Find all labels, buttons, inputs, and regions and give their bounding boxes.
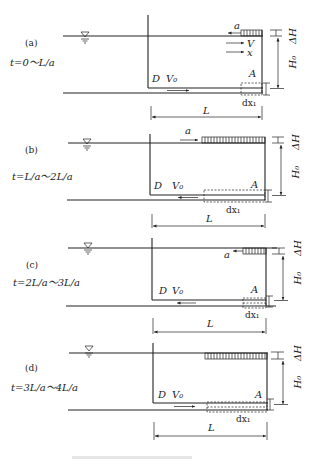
valve-label-a: A xyxy=(248,68,256,79)
length-label: L xyxy=(207,422,215,433)
h0-label: H₀ xyxy=(290,166,301,180)
wave-speed-label: a xyxy=(224,249,230,260)
initial-velocity-label: V₀ xyxy=(166,73,177,84)
initial-velocity-label: V₀ xyxy=(172,285,183,296)
initial-velocity-label: V₀ xyxy=(172,389,183,400)
h0-label: H₀ xyxy=(292,272,303,286)
time-range-label: t=0～L/a xyxy=(10,57,55,68)
length-label: L xyxy=(206,318,214,329)
delta-h-dimension xyxy=(270,30,282,36)
valve-label-a: A xyxy=(250,284,258,295)
h0-label: H₀ xyxy=(287,56,298,70)
x-label: x xyxy=(247,47,253,58)
initial-velocity-label: V₀ xyxy=(172,180,183,191)
time-range-label: t=2L/a～3L/a xyxy=(13,277,80,288)
water-level-symbol-icon xyxy=(81,32,89,43)
panel-a: (a) t=0～L/a a V x D V₀ A xyxy=(10,15,298,120)
delta-h-label: ΔH xyxy=(287,28,298,45)
reservoir-label-d: D xyxy=(151,73,160,84)
reservoir-label-d: D xyxy=(158,285,167,296)
wave-speed-label: a xyxy=(185,125,191,136)
delta-h-label: ΔH xyxy=(292,345,303,362)
pressure-rise-block xyxy=(205,353,267,359)
valve-label-a: A xyxy=(254,389,262,400)
wave-speed-label: a xyxy=(234,20,240,31)
h0-label: H₀ xyxy=(292,376,303,390)
pipe-diameter-dimension xyxy=(267,399,274,410)
water-level-symbol-icon xyxy=(83,139,91,150)
delta-h-dimension xyxy=(272,137,284,143)
time-range-label: t=3L/a～4L/a xyxy=(11,382,78,393)
reservoir-label-d: D xyxy=(153,180,162,191)
delta-h-dimension xyxy=(271,352,284,359)
water-hammer-diagram: (a) t=0～L/a a V x D V₀ A xyxy=(0,0,321,464)
length-label: L xyxy=(205,213,213,224)
delta-h-label: ΔH xyxy=(290,134,301,151)
reservoir-label-d: D xyxy=(157,389,166,400)
pressure-rise-block xyxy=(243,248,266,254)
panel-label: (d) xyxy=(25,363,38,373)
dx-label: dx₁ xyxy=(242,98,256,108)
pipe-diameter-dimension xyxy=(265,190,272,202)
dx-label: dx₁ xyxy=(245,310,259,320)
panel-label: (c) xyxy=(26,260,38,270)
delta-h-dimension xyxy=(272,248,285,254)
panel-d: (d) t=3L/a～4L/a D V₀ A dx₁ ΔH H xyxy=(11,343,303,440)
panel-label: (a) xyxy=(25,38,37,48)
dx-label: dx₁ xyxy=(226,205,240,215)
length-label: L xyxy=(202,105,210,116)
panel-b: (b) t=L/a～2L/a a D V₀ A dx₁ ΔH H₀ xyxy=(12,125,301,228)
water-level-symbol-icon xyxy=(85,346,93,357)
panel-c: (c) t=2L/a～3L/a a D V₀ A dx₁ ΔH xyxy=(13,238,303,334)
valve-label-a: A xyxy=(250,179,258,190)
figure-caption-faint xyxy=(72,456,192,459)
delta-h-label: ΔH xyxy=(292,240,303,257)
pipe-diameter-dimension xyxy=(266,296,273,307)
dx-label: dx₁ xyxy=(236,414,250,424)
time-range-label: t=L/a～2L/a xyxy=(12,171,73,182)
panel-label: (b) xyxy=(25,145,38,155)
pressure-rise-block xyxy=(241,30,262,36)
pipe-diameter-dimension xyxy=(263,83,270,95)
pressure-rise-block xyxy=(202,137,265,143)
